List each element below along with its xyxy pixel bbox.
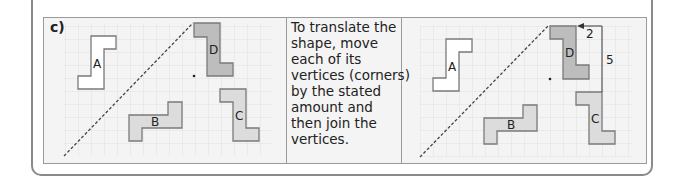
instruction-line: then join the <box>291 115 401 131</box>
instruction-line: shape, move <box>291 35 401 51</box>
instruction-line: vertices. <box>291 131 401 147</box>
instruction-line: To translate the <box>291 19 401 35</box>
instruction-line: by the stated <box>291 83 401 99</box>
shape-b-label: B <box>507 118 515 132</box>
instruction-line: amount and <box>291 99 401 115</box>
shape-c-label: C <box>591 112 599 126</box>
shape-b-label: B <box>151 115 159 129</box>
instruction-line: vertices (corners) <box>291 67 401 83</box>
right-grid-panel: A D B C 2 5 <box>420 23 633 157</box>
panel-divider <box>286 17 287 164</box>
vertical-move-label: 5 <box>606 53 614 67</box>
horizontal-move-label: 2 <box>586 27 594 41</box>
instruction-line: each of its <box>291 51 401 67</box>
centre-dot <box>193 75 196 78</box>
left-grid-panel: A D B C <box>64 23 272 156</box>
shape-a-label: A <box>93 57 102 71</box>
shape-d-label: D <box>209 43 218 57</box>
panel-divider <box>401 17 402 164</box>
shape-a-label: A <box>448 60 457 74</box>
instruction-text: To translate the shape, move each of its… <box>291 19 401 147</box>
centre-dot <box>549 78 552 81</box>
question-label: c) <box>50 19 65 35</box>
shape-d-label: D <box>565 46 574 60</box>
shape-c-label: C <box>235 109 243 123</box>
